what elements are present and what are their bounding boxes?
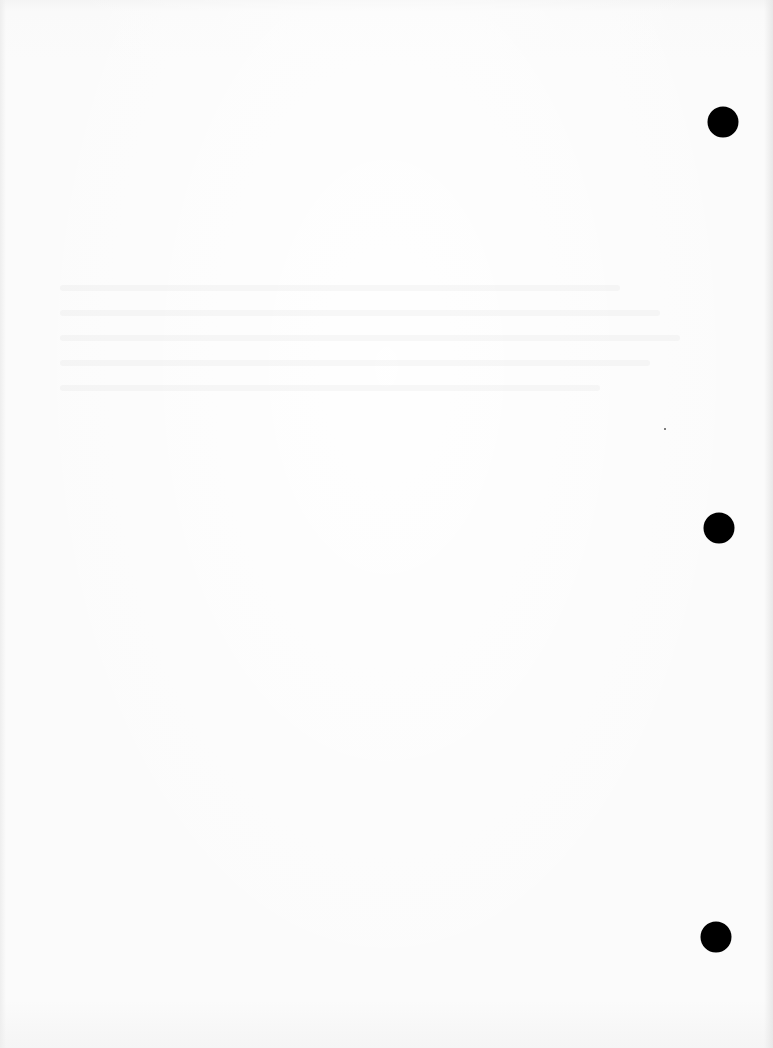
show-through-band [60,385,600,391]
show-through-band [60,310,660,316]
punch-hole-top [708,107,739,138]
page-edge-shadow-right [764,0,773,1048]
show-through-band [60,360,650,366]
punch-hole-bottom [701,922,732,953]
page-edge-shadow-left [0,0,6,1048]
scanned-document-page [0,0,773,1048]
show-through-band [60,285,620,291]
show-through-band [60,335,680,341]
dust-speck [664,428,666,430]
punch-hole-middle [704,513,735,544]
